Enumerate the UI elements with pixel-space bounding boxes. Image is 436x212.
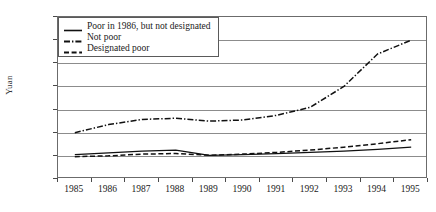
x-axis-tick-label: 1989 (199, 184, 218, 194)
legend: Poor in 1986, but not designatedNot poor… (58, 17, 219, 57)
legend-label: Designated poor (87, 43, 150, 53)
x-axis-tick-label: 1992 (300, 184, 319, 194)
x-axis-tick-label: 1995 (401, 184, 420, 194)
legend-item: Poor in 1986, but not designated (64, 20, 211, 31)
x-axis-tick-label: 1991 (266, 184, 285, 194)
line-chart: Yuan 03005007009001,1001,3001,500 198519… (0, 0, 436, 212)
legend-item: Designated poor (64, 42, 211, 53)
legend-swatch-dash-dot-icon (64, 32, 82, 41)
legend-swatch-dashed-icon (64, 43, 82, 52)
x-axis-tick-label: 1985 (64, 184, 83, 194)
legend-label: Poor in 1986, but not designated (87, 21, 211, 31)
x-axis-tick-label: 1993 (333, 184, 352, 194)
legend-label: Not poor (87, 32, 121, 42)
x-axis-tick-label: 1994 (367, 184, 386, 194)
legend-swatch-solid-icon (64, 21, 82, 30)
legend-item: Not poor (64, 31, 211, 42)
y-axis-title: Yuan (4, 57, 14, 113)
x-axis-tick-label: 1990 (233, 184, 252, 194)
x-axis-tick-label: 1988 (165, 184, 184, 194)
series-line-3 (75, 140, 411, 157)
x-axis-tick-label: 1987 (132, 184, 151, 194)
x-axis-tick-label: 1986 (98, 184, 117, 194)
